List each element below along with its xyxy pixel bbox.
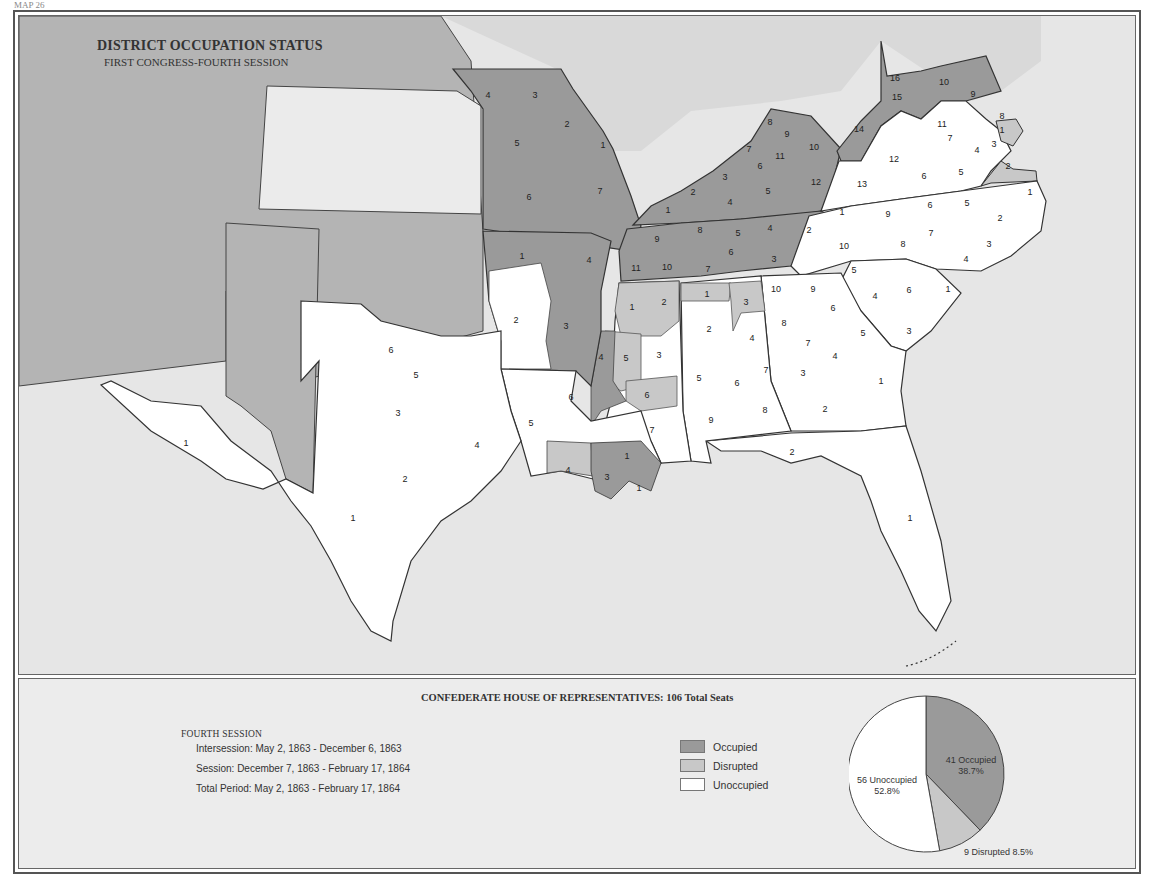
- svg-text:6: 6: [728, 247, 733, 257]
- svg-text:3: 3: [743, 297, 748, 307]
- svg-text:3: 3: [395, 408, 400, 418]
- svg-text:5: 5: [860, 328, 865, 338]
- disrupted-pie-label: 9 Disrupted 8.5%: [964, 847, 1054, 858]
- svg-text:4: 4: [872, 291, 877, 301]
- session-dates: Session: December 7, 1863 - February 17,…: [196, 759, 410, 779]
- svg-text:1: 1: [907, 513, 912, 523]
- chart-title: CONFEDERATE HOUSE OF REPRESENTATIVES: 10…: [421, 692, 733, 703]
- svg-text:5: 5: [696, 373, 701, 383]
- svg-text:4: 4: [598, 352, 603, 362]
- svg-text:10: 10: [939, 77, 949, 87]
- svg-text:2: 2: [1005, 161, 1010, 171]
- svg-text:11: 11: [775, 151, 784, 161]
- svg-text:8: 8: [762, 405, 767, 415]
- svg-text:1: 1: [945, 284, 950, 294]
- svg-text:3: 3: [532, 90, 537, 100]
- total-period-dates: Total Period: May 2, 1863 - February 17,…: [196, 779, 410, 799]
- legend-label: Unoccupied: [713, 779, 768, 791]
- svg-text:1: 1: [999, 125, 1004, 135]
- svg-text:5: 5: [413, 370, 418, 380]
- unoccupied-count: 56 Unoccupied: [847, 775, 927, 786]
- svg-text:4: 4: [727, 197, 732, 207]
- svg-text:8: 8: [900, 239, 905, 249]
- svg-text:4: 4: [767, 223, 772, 233]
- svg-text:2: 2: [402, 474, 407, 484]
- svg-text:1: 1: [350, 513, 355, 523]
- svg-text:9: 9: [810, 284, 815, 294]
- svg-text:4: 4: [963, 254, 968, 264]
- map-title: DISTRICT OCCUPATION STATUS: [97, 38, 323, 54]
- svg-text:6: 6: [757, 161, 762, 171]
- svg-text:1: 1: [878, 376, 883, 386]
- seat-pie-chart: 41 Occupied 38.7% 56 Unoccupied 52.8% 9 …: [849, 677, 1149, 871]
- svg-text:5: 5: [964, 198, 969, 208]
- svg-text:8: 8: [767, 117, 772, 127]
- session-info: FOURTH SESSION Intersession: May 2, 1863…: [181, 729, 410, 799]
- svg-text:4: 4: [485, 90, 490, 100]
- svg-text:1: 1: [519, 251, 524, 261]
- svg-text:6: 6: [830, 303, 835, 313]
- legend-item-unoccupied: Unoccupied: [680, 775, 768, 794]
- svg-text:4: 4: [832, 351, 837, 361]
- pie-slice-unoccupied: [849, 696, 940, 852]
- svg-text:3: 3: [722, 172, 727, 182]
- map-panel: 4 3 2 5 1 6 7 8 9 10 7 11 6 3 12 2 5 4 1…: [18, 15, 1136, 675]
- svg-text:3: 3: [771, 254, 776, 264]
- svg-text:5: 5: [735, 228, 740, 238]
- svg-text:4: 4: [749, 333, 754, 343]
- svg-text:3: 3: [656, 350, 661, 360]
- map-subtitle: FIRST CONGRESS-FOURTH SESSION: [104, 56, 288, 68]
- svg-text:2: 2: [690, 187, 695, 197]
- svg-text:14: 14: [854, 124, 864, 134]
- svg-text:1: 1: [839, 207, 844, 217]
- svg-text:4: 4: [974, 145, 979, 155]
- svg-text:1: 1: [600, 140, 605, 150]
- svg-text:5: 5: [528, 418, 533, 428]
- summary-panel: CONFEDERATE HOUSE OF REPRESENTATIVES: 10…: [18, 678, 1136, 869]
- svg-text:5: 5: [623, 353, 628, 363]
- disrupted-swatch: [680, 759, 705, 772]
- svg-text:4: 4: [586, 255, 591, 265]
- svg-text:7: 7: [746, 144, 751, 154]
- svg-text:9: 9: [970, 89, 975, 99]
- svg-text:3: 3: [604, 472, 609, 482]
- svg-text:5: 5: [851, 265, 856, 275]
- svg-text:12: 12: [889, 154, 899, 164]
- svg-text:5: 5: [958, 167, 963, 177]
- legend: Occupied Disrupted Unoccupied: [680, 737, 768, 794]
- svg-text:16: 16: [890, 73, 900, 83]
- svg-text:11: 11: [631, 263, 640, 273]
- svg-text:3: 3: [906, 326, 911, 336]
- svg-text:6: 6: [921, 171, 926, 181]
- occupation-map: 4 3 2 5 1 6 7 8 9 10 7 11 6 3 12 2 5 4 1…: [19, 16, 1136, 675]
- svg-text:2: 2: [789, 447, 794, 457]
- svg-text:2: 2: [806, 225, 811, 235]
- svg-text:7: 7: [928, 228, 933, 238]
- svg-text:7: 7: [763, 365, 768, 375]
- svg-text:1: 1: [624, 451, 629, 461]
- svg-text:6: 6: [644, 390, 649, 400]
- svg-text:8: 8: [999, 111, 1004, 121]
- legend-item-occupied: Occupied: [680, 737, 768, 756]
- svg-text:2: 2: [706, 324, 711, 334]
- svg-text:5: 5: [765, 186, 770, 196]
- svg-text:1: 1: [665, 205, 670, 215]
- occupied-percent: 38.7%: [931, 766, 1011, 777]
- svg-text:6: 6: [734, 378, 739, 388]
- svg-text:1: 1: [636, 483, 641, 493]
- intersession-dates: Intersession: May 2, 1863 - December 6, …: [196, 739, 410, 759]
- svg-text:9: 9: [654, 234, 659, 244]
- svg-text:7: 7: [947, 133, 952, 143]
- svg-text:1: 1: [704, 289, 709, 299]
- svg-text:3: 3: [986, 239, 991, 249]
- svg-text:2: 2: [661, 297, 666, 307]
- svg-text:13: 13: [857, 179, 867, 189]
- svg-text:3: 3: [800, 368, 805, 378]
- page-label: MAP 26: [14, 0, 44, 10]
- svg-text:1: 1: [629, 302, 634, 312]
- svg-text:2: 2: [822, 404, 827, 414]
- svg-text:3: 3: [991, 139, 996, 149]
- unoccupied-percent: 52.8%: [847, 786, 927, 797]
- mississippi-district-6: [626, 376, 677, 411]
- svg-text:7: 7: [705, 264, 710, 274]
